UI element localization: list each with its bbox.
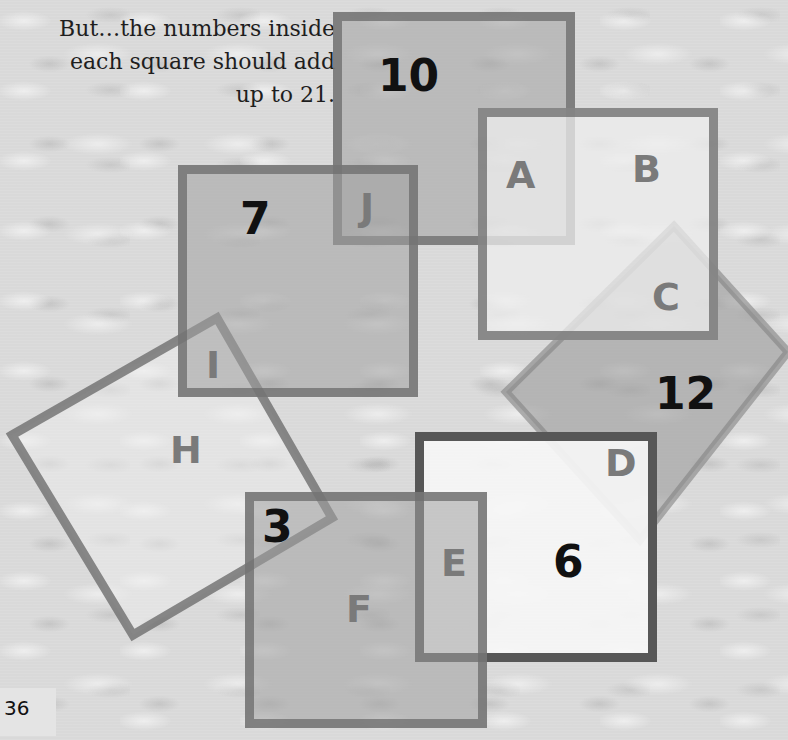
- number-10: 10: [378, 54, 439, 98]
- number-12: 12: [655, 372, 716, 416]
- letter-f: F: [346, 590, 372, 628]
- letter-j: J: [360, 188, 374, 226]
- letter-c: C: [652, 278, 680, 316]
- letter-d: D: [605, 444, 637, 482]
- letter-b: B: [632, 150, 661, 188]
- number-6: 6: [553, 540, 584, 584]
- page-number: 36: [0, 688, 56, 736]
- letter-e: E: [441, 544, 467, 582]
- letter-a: A: [506, 156, 535, 194]
- letter-i: I: [206, 346, 220, 384]
- square-abc: [478, 108, 718, 340]
- number-7: 7: [240, 197, 271, 241]
- number-3: 3: [262, 505, 293, 549]
- letter-h: H: [170, 431, 202, 469]
